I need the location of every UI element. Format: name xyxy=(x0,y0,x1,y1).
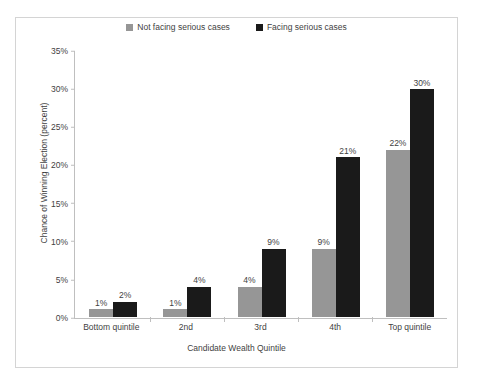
plot-wrap: 0%5%10%15%20%25%30%35% 1%2%1%4%4%9%9%21%… xyxy=(74,51,447,319)
x-axis-tick-labels: Bottom quintile2nd3rd4thTop quintile xyxy=(74,322,447,332)
chart-container: Not facing serious cases Facing serious … xyxy=(15,17,458,368)
y-axis-tick: 15% xyxy=(51,199,75,208)
y-axis-tick-label: 20% xyxy=(51,161,71,170)
bar-group: 22%30% xyxy=(373,51,447,317)
bar-not-facing-serious-cases[interactable]: 1% xyxy=(163,309,187,317)
y-axis-tick: 0% xyxy=(56,314,75,323)
bar-facing-serious-cases[interactable]: 4% xyxy=(187,287,211,317)
bar-not-facing-serious-cases[interactable]: 1% xyxy=(89,309,113,317)
y-axis-tick-mark xyxy=(71,203,75,204)
y-axis-tick-mark xyxy=(71,279,75,280)
bar-value-label: 2% xyxy=(119,291,131,300)
bar-groups: 1%2%1%4%4%9%9%21%22%30% xyxy=(76,51,447,317)
bar-facing-serious-cases[interactable]: 9% xyxy=(262,249,286,317)
y-axis-tick: 10% xyxy=(51,237,75,246)
bar-value-label: 22% xyxy=(389,139,406,148)
bar-value-label: 1% xyxy=(95,299,107,308)
y-axis-tick-mark xyxy=(71,51,75,52)
y-axis-tick-label: 30% xyxy=(51,85,71,94)
bar-not-facing-serious-cases[interactable]: 9% xyxy=(312,249,336,317)
plot-area: 0%5%10%15%20%25%30%35% 1%2%1%4%4%9%9%21%… xyxy=(74,51,447,319)
y-axis-tick: 25% xyxy=(51,123,75,132)
y-axis-tick: 35% xyxy=(51,47,75,56)
y-axis-tick-label: 5% xyxy=(56,276,71,285)
x-axis-category-label: 3rd xyxy=(223,322,298,332)
legend-label-series-2: Facing serious cases xyxy=(267,23,347,32)
bar-group: 4%9% xyxy=(224,51,298,317)
y-axis-tick-mark xyxy=(71,89,75,90)
x-axis-category-label: Bottom quintile xyxy=(74,322,149,332)
bar-value-label: 9% xyxy=(267,238,279,247)
bar-not-facing-serious-cases[interactable]: 22% xyxy=(386,150,410,317)
bar-value-label: 4% xyxy=(193,276,205,285)
y-axis-tick-label: 10% xyxy=(51,237,71,246)
bar-value-label: 1% xyxy=(169,299,181,308)
y-axis-title: Chance of Winning Election (percent) xyxy=(39,73,49,273)
y-axis-tick-mark xyxy=(71,127,75,128)
bar-value-label: 4% xyxy=(243,276,255,285)
legend-item-not-facing-serious-cases: Not facing serious cases xyxy=(126,23,230,32)
x-axis-category-label: 2nd xyxy=(149,322,224,332)
bar-group: 9%21% xyxy=(299,51,373,317)
x-axis-category-label: 4th xyxy=(298,322,373,332)
bar-group: 1%4% xyxy=(150,51,224,317)
y-axis-tick-label: 15% xyxy=(51,199,71,208)
legend-item-facing-serious-cases: Facing serious cases xyxy=(256,23,347,32)
bar-facing-serious-cases[interactable]: 21% xyxy=(336,157,360,317)
chart-legend: Not facing serious cases Facing serious … xyxy=(16,23,457,32)
y-axis-tick: 20% xyxy=(51,161,75,170)
bar-facing-serious-cases[interactable]: 2% xyxy=(113,302,137,317)
y-axis-tick-label: 25% xyxy=(51,123,71,132)
legend-swatch-gray-icon xyxy=(126,24,133,31)
x-axis-category-label: Top quintile xyxy=(372,322,447,332)
x-axis-title: Candidate Wealth Quintile xyxy=(16,343,457,353)
bar-value-label: 21% xyxy=(339,147,356,156)
bar-facing-serious-cases[interactable]: 30% xyxy=(410,89,434,317)
y-axis-tick-mark xyxy=(71,241,75,242)
y-axis-tick-mark xyxy=(71,318,75,319)
bar-value-label: 30% xyxy=(413,79,430,88)
y-axis-tick-mark xyxy=(71,165,75,166)
legend-swatch-black-icon xyxy=(256,24,263,31)
y-axis-tick: 5% xyxy=(56,276,75,285)
y-axis-tick: 30% xyxy=(51,85,75,94)
y-axis-tick-label: 35% xyxy=(51,47,71,56)
bar-value-label: 9% xyxy=(318,238,330,247)
bar-not-facing-serious-cases[interactable]: 4% xyxy=(238,287,262,317)
bar-group: 1%2% xyxy=(76,51,150,317)
legend-label-series-1: Not facing serious cases xyxy=(137,23,230,32)
y-axis-tick-label: 0% xyxy=(56,314,71,323)
